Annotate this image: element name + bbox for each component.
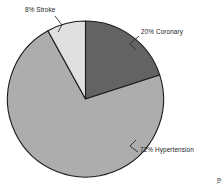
copyright-credit: © Cengage Learning: [214, 178, 221, 184]
pie-label-coronary: 20% Coronary: [141, 28, 183, 35]
pie-label-hypertension: 72% Hypertension: [140, 146, 194, 153]
pie-label-stroke: 8% Stroke: [25, 6, 55, 13]
pie-chart-svg: [0, 0, 223, 184]
pie-chart-figure: 8% Stroke 20% Coronary 72% Hypertension …: [0, 0, 223, 184]
